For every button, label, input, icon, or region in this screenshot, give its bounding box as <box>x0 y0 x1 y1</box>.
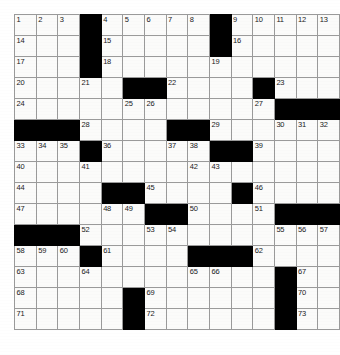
crossword-cell[interactable]: 66 <box>209 267 231 288</box>
crossword-cell[interactable] <box>123 267 145 288</box>
crossword-cell[interactable]: 48 <box>101 204 123 225</box>
crossword-cell[interactable] <box>231 78 253 99</box>
crossword-cell[interactable]: 47 <box>15 204 37 225</box>
crossword-cell[interactable] <box>79 288 101 309</box>
crossword-cell[interactable]: 17 <box>15 57 37 78</box>
crossword-cell[interactable]: 26 <box>144 99 166 120</box>
crossword-cell[interactable] <box>123 57 145 78</box>
crossword-cell[interactable]: 33 <box>15 141 37 162</box>
crossword-cell[interactable] <box>253 309 275 330</box>
crossword-cell[interactable] <box>166 99 188 120</box>
crossword-cell[interactable]: 69 <box>144 288 166 309</box>
crossword-cell[interactable]: 5 <box>123 15 145 36</box>
crossword-cell[interactable]: 22 <box>166 78 188 99</box>
crossword-cell[interactable]: 31 <box>296 120 318 141</box>
crossword-cell[interactable] <box>123 141 145 162</box>
crossword-cell[interactable] <box>253 57 275 78</box>
crossword-cell[interactable]: 37 <box>166 141 188 162</box>
crossword-cell[interactable] <box>36 99 58 120</box>
crossword-cell[interactable] <box>209 225 231 246</box>
crossword-cell[interactable] <box>296 246 318 267</box>
crossword-cell[interactable] <box>231 204 253 225</box>
crossword-cell[interactable] <box>188 183 210 204</box>
crossword-cell[interactable] <box>253 267 275 288</box>
crossword-cell[interactable]: 21 <box>79 78 101 99</box>
crossword-cell[interactable]: 72 <box>144 309 166 330</box>
crossword-cell[interactable] <box>166 309 188 330</box>
crossword-cell[interactable] <box>231 57 253 78</box>
crossword-cell[interactable] <box>166 288 188 309</box>
crossword-cell[interactable] <box>296 57 318 78</box>
crossword-cell[interactable] <box>274 36 296 57</box>
crossword-cell[interactable] <box>166 36 188 57</box>
crossword-cell[interactable] <box>58 57 80 78</box>
crossword-cell[interactable] <box>58 78 80 99</box>
crossword-cell[interactable] <box>144 120 166 141</box>
crossword-cell[interactable] <box>188 36 210 57</box>
crossword-cell[interactable]: 18 <box>101 57 123 78</box>
crossword-cell[interactable] <box>209 309 231 330</box>
crossword-cell[interactable]: 13 <box>318 15 340 36</box>
crossword-cell[interactable]: 57 <box>318 225 340 246</box>
crossword-cell[interactable] <box>123 162 145 183</box>
crossword-cell[interactable] <box>253 36 275 57</box>
crossword-cell[interactable] <box>318 78 340 99</box>
crossword-cell[interactable] <box>253 225 275 246</box>
crossword-cell[interactable]: 55 <box>274 225 296 246</box>
crossword-cell[interactable] <box>58 162 80 183</box>
crossword-cell[interactable] <box>318 57 340 78</box>
crossword-cell[interactable]: 7 <box>166 15 188 36</box>
crossword-cell[interactable] <box>36 309 58 330</box>
crossword-cell[interactable] <box>36 204 58 225</box>
crossword-cell[interactable] <box>318 288 340 309</box>
crossword-cell[interactable] <box>318 162 340 183</box>
crossword-cell[interactable] <box>36 78 58 99</box>
crossword-cell[interactable]: 67 <box>296 267 318 288</box>
crossword-cell[interactable] <box>296 78 318 99</box>
crossword-cell[interactable] <box>209 204 231 225</box>
crossword-cell[interactable]: 52 <box>79 225 101 246</box>
crossword-cell[interactable]: 20 <box>15 78 37 99</box>
crossword-cell[interactable]: 62 <box>253 246 275 267</box>
crossword-cell[interactable] <box>231 162 253 183</box>
crossword-cell[interactable] <box>209 99 231 120</box>
crossword-cell[interactable]: 44 <box>15 183 37 204</box>
crossword-cell[interactable] <box>274 162 296 183</box>
crossword-cell[interactable] <box>231 99 253 120</box>
crossword-cell[interactable]: 1 <box>15 15 37 36</box>
crossword-cell[interactable]: 36 <box>101 141 123 162</box>
crossword-cell[interactable]: 56 <box>296 225 318 246</box>
crossword-cell[interactable]: 24 <box>15 99 37 120</box>
crossword-cell[interactable]: 58 <box>15 246 37 267</box>
crossword-cell[interactable] <box>79 204 101 225</box>
crossword-cell[interactable] <box>101 99 123 120</box>
crossword-cell[interactable] <box>318 246 340 267</box>
crossword-cell[interactable]: 49 <box>123 204 145 225</box>
crossword-cell[interactable] <box>274 141 296 162</box>
crossword-cell[interactable] <box>144 57 166 78</box>
crossword-cell[interactable] <box>123 120 145 141</box>
crossword-cell[interactable]: 3 <box>58 15 80 36</box>
crossword-cell[interactable]: 32 <box>318 120 340 141</box>
crossword-cell[interactable]: 68 <box>15 288 37 309</box>
crossword-cell[interactable]: 19 <box>209 57 231 78</box>
crossword-cell[interactable] <box>58 204 80 225</box>
crossword-cell[interactable]: 73 <box>296 309 318 330</box>
crossword-cell[interactable] <box>209 183 231 204</box>
crossword-cell[interactable] <box>231 267 253 288</box>
crossword-cell[interactable]: 34 <box>36 141 58 162</box>
crossword-cell[interactable]: 46 <box>253 183 275 204</box>
crossword-cell[interactable] <box>296 183 318 204</box>
crossword-cell[interactable] <box>58 36 80 57</box>
crossword-cell[interactable] <box>188 99 210 120</box>
crossword-cell[interactable] <box>58 267 80 288</box>
crossword-cell[interactable] <box>296 162 318 183</box>
crossword-cell[interactable] <box>101 120 123 141</box>
crossword-cell[interactable] <box>123 225 145 246</box>
crossword-cell[interactable]: 65 <box>188 267 210 288</box>
crossword-cell[interactable] <box>101 267 123 288</box>
crossword-cell[interactable]: 35 <box>58 141 80 162</box>
crossword-cell[interactable] <box>123 36 145 57</box>
crossword-cell[interactable] <box>274 183 296 204</box>
crossword-cell[interactable]: 12 <box>296 15 318 36</box>
